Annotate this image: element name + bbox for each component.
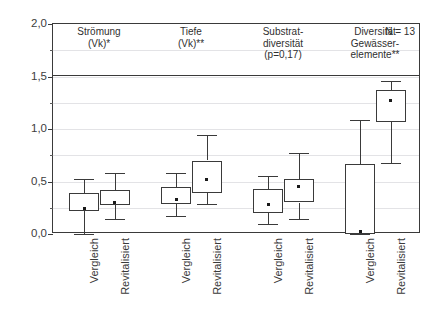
boxplot-chart: 0,00,51,01,52,0 Strömung (Vk)*Tiefe (Vk)… [0,0,430,329]
cropped-top-text [0,0,430,9]
x-category-label: Revitalisiert [395,238,407,295]
y-tick-label: 1,0 [13,122,47,134]
whisker-lower [391,122,392,163]
x-axis-labels: VergleichRevitalisiertVergleichRevitalis… [52,234,420,329]
y-tick-label: 0,0 [13,227,47,239]
y-tick-label: 0,5 [13,175,47,187]
x-category-label: Revitalisiert [211,238,223,295]
y-tick-label: 2,0 [13,17,47,29]
cap-upper [381,81,401,82]
x-category-label: Vergleich [88,238,100,283]
x-category-label: Vergleich [180,238,192,283]
cap-lower [381,163,401,164]
whisker-upper [391,81,392,90]
median-marker [389,99,392,102]
y-axis-labels: 0,00,51,01,52,0 [0,0,47,329]
x-category-label: Vergleich [272,238,284,283]
plot-area: Strömung (Vk)*Tiefe (Vk)**Substrat- dive… [52,23,420,233]
x-category-label: Revitalisiert [303,238,315,295]
boxplot-8 [53,24,421,232]
box-iqr [376,90,406,122]
x-category-label: Revitalisiert [119,238,131,295]
y-tick-label: 1,5 [13,70,47,82]
x-category-label: Vergleich [364,238,376,283]
